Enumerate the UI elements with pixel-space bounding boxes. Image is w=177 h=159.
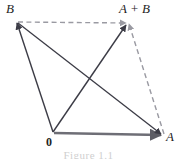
vector-ob <box>17 23 53 132</box>
figure-caption: Figure 1.1 <box>0 150 177 159</box>
vertex-label-a-plus-b: A + B <box>119 2 150 15</box>
vertex-label-origin: 0 <box>46 136 52 148</box>
vector-oa <box>54 133 161 135</box>
vector-diagram-canvas <box>0 0 177 159</box>
side-b-to-apb-dashed <box>18 22 126 23</box>
side-a-to-apb-dashed <box>129 24 164 134</box>
vector-ba <box>18 23 161 134</box>
vector-addition-figure: B A + B 0 A Figure 1.1 <box>0 0 177 159</box>
vertex-label-a: A <box>166 130 174 143</box>
vertex-label-b: B <box>6 2 14 15</box>
